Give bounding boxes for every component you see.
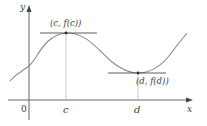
x-axis-arrow-icon — [186, 98, 193, 103]
max-point-label: (c, f(c)) — [50, 18, 81, 28]
max-point — [65, 32, 68, 35]
origin-label: 0 — [21, 104, 27, 114]
x-axis-label: x — [187, 104, 192, 114]
min-point — [137, 72, 140, 75]
function-curve — [10, 33, 187, 81]
function-graph-diagram: y x 0 c d (c, f(c)) (d, f(d)) — [0, 0, 207, 126]
tick-label-c: c — [63, 104, 69, 115]
y-axis-label: y — [19, 2, 26, 12]
tick-label-d: d — [134, 104, 140, 115]
min-point-label: (d, f(d)) — [136, 76, 169, 86]
y-axis-arrow-icon — [27, 5, 32, 12]
